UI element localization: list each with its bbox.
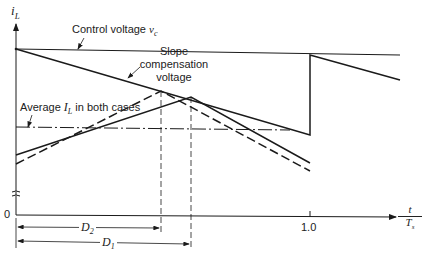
average-current-label: Average IL in both cases xyxy=(20,101,140,116)
control-voltage-leader xyxy=(78,38,84,49)
x-axis-label: t Ts xyxy=(398,204,422,231)
origin-label: 0 xyxy=(4,209,10,220)
d1-label: D1 xyxy=(100,236,117,251)
current-mode-control-diagram xyxy=(0,0,429,257)
y-axis xyxy=(12,24,20,215)
y-axis-label: iL xyxy=(11,4,20,21)
d2-label: D2 xyxy=(79,221,96,236)
slope-compensation-label: Slope compensation voltage xyxy=(136,45,212,84)
x-tick-label: 1.0 xyxy=(301,222,316,233)
control-voltage-label: Control voltage vc xyxy=(72,24,158,38)
x-axis xyxy=(16,211,396,217)
average-leader xyxy=(28,115,32,127)
